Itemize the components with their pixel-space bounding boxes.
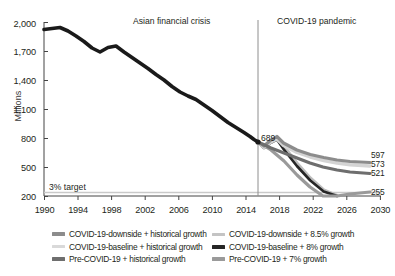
x-tick: 2010 [195,205,229,215]
x-tick: 2006 [162,205,196,215]
legend-label: COVID-19-downside + 8.5% growth [229,229,354,239]
series-historical [44,28,258,143]
legend-label: COVID-19-downside + historical growth [69,229,207,239]
annotation-asian-financial-crisis: Asian financial crisis [133,16,210,26]
legend-item[interactable]: COVID-19-baseline + historical growth [52,241,207,254]
legend-swatch-icon [52,245,65,248]
legend-swatch-icon [52,257,65,261]
legend-item[interactable]: Pre-COVID-19 + historical growth [52,253,207,266]
legend-item[interactable]: COVID-19-baseline + 8% growth [212,241,354,254]
x-tick: 2026 [330,205,364,215]
legend-label: COVID-19-baseline + 8% growth [229,242,343,252]
legend-label: Pre-COVID-19 + 7% growth [229,254,327,264]
legend-item[interactable]: COVID-19-downside + 8.5% growth [212,228,354,241]
chart-legend: COVID-19-downside + historical growth CO… [0,228,389,272]
pivot-marker [255,139,260,144]
x-tick: 2018 [263,205,297,215]
endpoint-label-255: 255 [371,187,384,197]
legend-label: Pre-COVID-19 + historical growth [69,254,186,264]
annotation-pivot-value: 689 [261,133,275,143]
legend-swatch-icon [212,245,225,249]
x-tick: 2030 [363,205,395,215]
annotation-covid-pandemic: COVID-19 pandemic [277,16,356,26]
x-tick: 1990 [28,205,62,215]
x-tick: 1994 [61,205,95,215]
annotation-target: 3% target [49,182,86,192]
legend-item[interactable]: COVID-19-downside + historical growth [52,228,207,241]
endpoint-label-521: 521 [371,168,384,178]
x-tick: 2014 [229,205,263,215]
legend-column-left: COVID-19-downside + historical growth CO… [52,228,207,266]
x-tick: 2022 [296,205,330,215]
x-tick: 2002 [128,205,162,215]
legend-item[interactable]: Pre-COVID-19 + 7% growth [212,253,354,266]
legend-swatch-icon [52,232,65,236]
legend-swatch-icon [212,257,225,261]
legend-column-right: COVID-19-downside + 8.5% growth COVID-19… [212,228,354,266]
legend-swatch-icon [212,233,225,236]
legend-label: COVID-19-baseline + historical growth [69,242,202,252]
x-tick: 1998 [95,205,129,215]
y-tick-marks [44,23,48,197]
